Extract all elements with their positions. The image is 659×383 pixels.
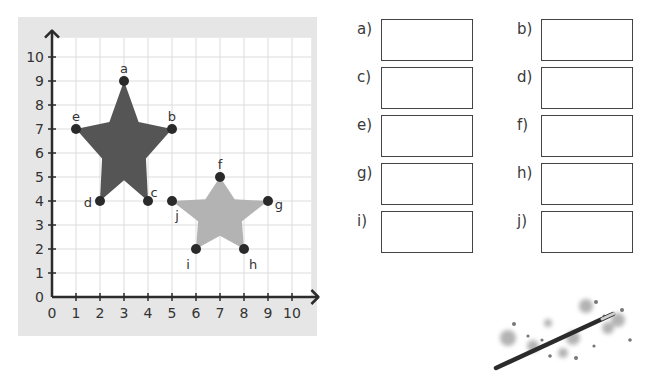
y-tick-label: 7	[35, 121, 44, 137]
magic-wand-icon	[478, 288, 638, 378]
y-tick-label: 8	[35, 97, 44, 113]
point-e	[71, 124, 81, 134]
answer-label-a: a)	[357, 22, 372, 37]
x-tick-label: 2	[96, 305, 105, 321]
point-i	[191, 244, 201, 254]
answer-box-c[interactable]	[381, 67, 473, 109]
answer-label-h: h)	[517, 166, 532, 181]
y-tick-label: 1	[35, 265, 44, 281]
x-tick-label: 3	[120, 305, 129, 321]
coordinate-graph: 012345678910012345678910 abcdefghij	[0, 0, 340, 345]
x-tick-label: 7	[216, 305, 225, 321]
x-tick-label: 4	[144, 305, 153, 321]
point-label-e: e	[72, 109, 80, 124]
point-f	[215, 172, 225, 182]
x-tick-label: 9	[264, 305, 273, 321]
point-label-f: f	[218, 157, 223, 172]
gridlines	[52, 38, 311, 297]
answer-label-j: j)	[517, 214, 527, 229]
answer-label-b: b)	[517, 22, 532, 37]
point-label-g: g	[275, 197, 283, 212]
point-label-d: d	[84, 195, 92, 210]
point-label-b: b	[168, 109, 176, 124]
answer-box-d[interactable]	[541, 67, 633, 109]
point-label-c: c	[150, 185, 157, 200]
x-tick-label: 5	[168, 305, 177, 321]
x-tick-label: 0	[48, 305, 57, 321]
y-tick-label: 2	[35, 241, 44, 257]
point-b	[167, 124, 177, 134]
point-a	[119, 76, 129, 86]
point-j	[167, 196, 177, 206]
answer-label-d: d)	[517, 70, 532, 85]
point-label-j: j	[174, 208, 179, 223]
y-tick-label: 4	[35, 193, 44, 209]
y-tick-label: 3	[35, 217, 44, 233]
answer-box-h[interactable]	[541, 163, 633, 205]
answer-label-g: g)	[357, 166, 372, 181]
y-tick-label: 6	[35, 145, 44, 161]
answer-box-f[interactable]	[541, 115, 633, 157]
point-label-a: a	[120, 61, 128, 76]
y-tick-label: 10	[26, 49, 44, 65]
answer-label-c: c)	[357, 70, 371, 85]
point-label-h: h	[249, 257, 257, 272]
y-tick-label: 9	[35, 73, 44, 89]
answer-box-j[interactable]	[541, 211, 633, 253]
answer-box-g[interactable]	[381, 163, 473, 205]
point-h	[239, 244, 249, 254]
point-label-i: i	[186, 257, 190, 272]
x-tick-label: 10	[283, 305, 301, 321]
point-g	[263, 196, 273, 206]
answer-box-e[interactable]	[381, 115, 473, 157]
answer-label-f: f)	[517, 118, 528, 133]
answer-label-i: i)	[357, 214, 367, 229]
answer-box-a[interactable]	[381, 19, 473, 61]
point-d	[95, 196, 105, 206]
answer-box-b[interactable]	[541, 19, 633, 61]
x-tick-label: 6	[192, 305, 201, 321]
y-tick-label: 0	[35, 289, 44, 305]
answer-label-e: e)	[357, 118, 372, 133]
answer-box-i[interactable]	[381, 211, 473, 253]
x-tick-label: 8	[240, 305, 249, 321]
x-tick-label: 1	[72, 305, 81, 321]
y-tick-label: 5	[35, 169, 44, 185]
